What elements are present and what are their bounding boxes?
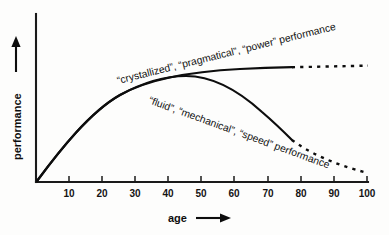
x-tick-label: 90 <box>328 188 340 199</box>
x-axis-title-group: age <box>168 212 231 224</box>
upper-curve-dashed-segment <box>292 66 368 68</box>
x-tick-label: 10 <box>63 188 75 199</box>
upper-curve-label: “crystallized”, “pragmatical”, “power” p… <box>116 21 337 86</box>
chart-canvas: 10 20 30 40 50 60 70 80 90 100 “crystall… <box>0 0 389 235</box>
x-tick-label: 30 <box>129 188 141 199</box>
x-tick-label: 70 <box>262 188 274 199</box>
upper-curve-solid-segment <box>37 67 292 181</box>
x-tick-label: 50 <box>195 188 207 199</box>
y-axis-title: performance <box>11 93 23 160</box>
x-tick-label: 60 <box>228 188 240 199</box>
upper-curve-label-group: “crystallized”, “pragmatical”, “power” p… <box>116 21 337 86</box>
x-tick-label: 80 <box>295 188 307 199</box>
y-axis-arrow-head-icon <box>11 36 20 47</box>
chart-figure: 10 20 30 40 50 60 70 80 90 100 “crystall… <box>0 0 389 235</box>
x-axis-tick-labels: 10 20 30 40 50 60 70 80 90 100 <box>63 188 375 199</box>
lower-curve-label-group: “fluid”, “mechanical”, “speed” performan… <box>147 95 331 171</box>
x-tick-label: 40 <box>162 188 174 199</box>
y-axis-title-group: performance <box>11 36 23 160</box>
x-tick-label: 100 <box>359 188 376 199</box>
lower-curve-solid-segment <box>37 76 292 181</box>
lower-curve-label: “fluid”, “mechanical”, “speed” performan… <box>147 95 331 171</box>
x-tick-label: 20 <box>96 188 108 199</box>
x-axis-arrow-head-icon <box>220 213 231 222</box>
x-axis-title: age <box>168 212 187 224</box>
